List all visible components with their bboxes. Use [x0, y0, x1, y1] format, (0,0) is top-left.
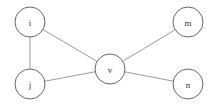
graph-node-n[interactable]: n	[173, 69, 203, 99]
graph-node-m[interactable]: m	[173, 7, 203, 37]
graph-node-label-m: m	[184, 18, 191, 28]
graph-node-j[interactable]: j	[15, 69, 45, 99]
graph-node-label-n: n	[186, 80, 191, 90]
graph-canvas: ijvmn	[0, 0, 215, 106]
graph-edge-i-v	[43, 30, 97, 62]
graph-edge-v-n	[125, 72, 174, 81]
graph-edge-j-v	[45, 72, 96, 81]
graph-node-i[interactable]: i	[15, 7, 45, 37]
graph-edge-v-m	[123, 30, 175, 62]
graph-diagram: ijvmn	[0, 0, 215, 106]
graph-node-label-j: j	[28, 80, 32, 90]
nodes-layer: ijvmn	[15, 7, 203, 99]
graph-node-v[interactable]: v	[95, 54, 125, 84]
graph-node-label-v: v	[108, 65, 113, 75]
